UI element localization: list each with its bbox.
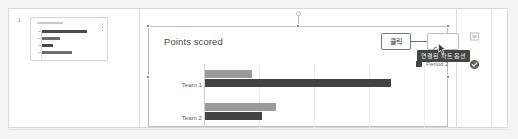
thumbnail-bar: [42, 44, 53, 47]
present-icon[interactable]: [469, 28, 480, 39]
thumbnail-kebab-icon[interactable]: [102, 23, 104, 31]
gridline: [314, 64, 315, 128]
selection-handle-middle-left[interactable]: [146, 75, 150, 79]
bar-team2-period1: [205, 103, 276, 111]
annotation-callout-click: 클릭: [381, 33, 411, 50]
bar-team1-period1: [205, 70, 252, 78]
rail-divider: [491, 9, 492, 127]
slide-thumbnail-panel: 1: [9, 9, 140, 127]
thumbnail-tick: [38, 45, 41, 46]
bar-team1-period2: [205, 79, 391, 87]
selection-handle-middle-right[interactable]: [446, 75, 450, 79]
gridline: [369, 64, 370, 128]
edit-check-icon[interactable]: [469, 56, 480, 67]
screenshot-root: 1 Points scored: [0, 0, 518, 139]
thumbnail-title-placeholder: [37, 22, 63, 24]
rotation-handle[interactable]: [296, 11, 301, 16]
bar-team2-period2: [205, 112, 262, 120]
slide-thumbnail-1[interactable]: [30, 17, 108, 61]
chart-title: Points scored: [164, 36, 223, 47]
gridline: [424, 64, 425, 128]
annotation-connector-line: [411, 41, 428, 42]
selection-handle-top-right[interactable]: [446, 24, 450, 28]
mouse-cursor-icon: [438, 41, 447, 59]
slide-number: 1: [18, 19, 21, 24]
chart-plot-area: [204, 64, 440, 128]
annotation-callout-label: 클릭: [390, 38, 402, 45]
thumbnail-tick: [38, 31, 41, 32]
thumbnail-bar: [42, 51, 72, 54]
category-label-team-1: Team 1: [158, 81, 202, 88]
thumbnail-bar: [42, 30, 87, 33]
rotation-handle-stem: [298, 15, 299, 24]
thumbnail-tick: [38, 38, 41, 39]
right-side-rail: [456, 9, 507, 127]
selection-handle-top-left[interactable]: [146, 24, 150, 28]
frame-shadow: [9, 129, 507, 130]
category-label-team-2: Team 2: [158, 114, 202, 121]
thumbnail-tick: [38, 52, 41, 53]
selection-handle-top-center[interactable]: [296, 24, 300, 28]
editor-frame: 1 Points scored: [8, 8, 508, 128]
slide-canvas[interactable]: Points scored Team 1 Team 2: [140, 9, 456, 127]
thumbnail-bar: [42, 37, 60, 40]
